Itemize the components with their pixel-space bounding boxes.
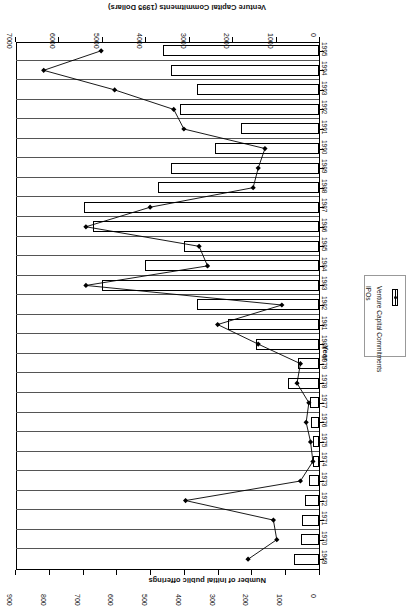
vc-tick-label: 3000 bbox=[180, 33, 187, 49]
ipo-marker-1986 bbox=[83, 224, 88, 229]
ipo-marker-1985 bbox=[196, 244, 201, 249]
ipo-marker-1987 bbox=[148, 205, 153, 210]
ipo-tick-label: 200 bbox=[242, 594, 249, 606]
ipo-tick-label: 700 bbox=[74, 594, 81, 606]
ipo-marker-1969 bbox=[245, 557, 250, 562]
year-label-1989: 1989 bbox=[321, 159, 328, 173]
vc-tick bbox=[232, 37, 233, 42]
vc-tick-label: 7000 bbox=[6, 33, 13, 49]
legend-label-vc: Venture Capital Commitments bbox=[376, 286, 383, 372]
ipo-tick-label: 400 bbox=[175, 594, 182, 606]
year-label-1970: 1970 bbox=[321, 531, 328, 545]
vc-tick bbox=[189, 37, 190, 42]
vc-tick bbox=[15, 37, 16, 42]
year-label-1984: 1984 bbox=[321, 257, 328, 271]
year-label-1993: 1993 bbox=[321, 81, 328, 95]
vc-tick-label: 0 bbox=[310, 33, 317, 37]
ipo-marker-1988 bbox=[251, 185, 256, 190]
ipo-marker-1990 bbox=[262, 146, 267, 151]
year-label-1992: 1992 bbox=[321, 100, 328, 114]
ipo-marker-1993 bbox=[112, 87, 117, 92]
ipo-tick bbox=[116, 570, 117, 575]
year-label-1981: 1981 bbox=[321, 316, 328, 330]
year-label-1991: 1991 bbox=[321, 120, 328, 134]
plot-area bbox=[16, 42, 320, 570]
ipo-tick bbox=[49, 570, 50, 575]
year-label-1972: 1972 bbox=[321, 492, 328, 506]
year-label-1971: 1971 bbox=[321, 511, 328, 525]
ipo-marker-1989 bbox=[256, 166, 261, 171]
year-axis-title: Year bbox=[321, 345, 330, 361]
ipo-axis-title: Number of Initial public offerings bbox=[148, 576, 266, 585]
ipo-marker-1978 bbox=[294, 381, 299, 386]
ipo-marker-1980 bbox=[256, 342, 261, 347]
vc-axis-title: Venture Capital Commitments (1995 Dollar… bbox=[108, 3, 266, 12]
year-label-1977: 1977 bbox=[321, 394, 328, 408]
ipo-axis bbox=[16, 569, 320, 570]
ipo-marker-1973 bbox=[298, 478, 303, 483]
ipo-marker-1992 bbox=[171, 107, 176, 112]
vc-tick bbox=[102, 37, 103, 42]
ipo-tick bbox=[285, 570, 286, 575]
vc-tick bbox=[58, 37, 59, 42]
vc-tick-label: 4000 bbox=[136, 33, 143, 49]
ipo-line-series bbox=[15, 41, 319, 569]
ipo-marker-1971 bbox=[271, 518, 276, 523]
ipo-marker-1970 bbox=[274, 537, 279, 542]
year-label-1988: 1988 bbox=[321, 179, 328, 193]
ipo-tick bbox=[184, 570, 185, 575]
year-label-1978: 1978 bbox=[321, 374, 328, 388]
ipo-tick-label: 600 bbox=[107, 594, 114, 606]
ipo-tick-label: 800 bbox=[40, 594, 47, 606]
ipo-tick bbox=[83, 570, 84, 575]
year-label-1983: 1983 bbox=[321, 276, 328, 290]
vc-tick-label: 6000 bbox=[49, 33, 56, 49]
ipo-tick-label: 500 bbox=[141, 594, 148, 606]
vc-tick bbox=[145, 37, 146, 42]
ipo-marker-1984 bbox=[205, 263, 210, 268]
ipo-marker-1981 bbox=[215, 322, 220, 327]
year-label-1974: 1974 bbox=[321, 452, 328, 466]
year-label-1985: 1985 bbox=[321, 237, 328, 251]
year-label-1982: 1982 bbox=[321, 296, 328, 310]
ipo-marker-1979 bbox=[298, 361, 303, 366]
ipo-marker-1982 bbox=[279, 302, 284, 307]
year-label-1973: 1973 bbox=[321, 472, 328, 486]
year-label-1987: 1987 bbox=[321, 198, 328, 212]
vc-axis bbox=[16, 41, 320, 42]
ipo-tick bbox=[251, 570, 252, 575]
vc-tick bbox=[276, 37, 277, 42]
ipo-tick-label: 0 bbox=[310, 594, 317, 598]
ipo-marker-1983 bbox=[83, 283, 88, 288]
ipo-marker-1994 bbox=[41, 68, 46, 73]
ipo-marker-1991 bbox=[181, 126, 186, 131]
year-label-1976: 1976 bbox=[321, 413, 328, 427]
year-label-1995: 1995 bbox=[321, 42, 328, 56]
vc-tick bbox=[319, 37, 320, 42]
ipo-tick-label: 300 bbox=[209, 594, 216, 606]
year-label-1986: 1986 bbox=[321, 218, 328, 232]
year-label-1969: 1969 bbox=[321, 550, 328, 564]
year-label-1994: 1994 bbox=[321, 61, 328, 75]
vc-tick-label: 1000 bbox=[267, 33, 274, 49]
legend-label-ipos: IPOs bbox=[365, 286, 372, 300]
ipo-tick bbox=[218, 570, 219, 575]
ipo-marker-1977 bbox=[306, 400, 311, 405]
year-label-1975: 1975 bbox=[321, 433, 328, 447]
ipo-tick-label: 900 bbox=[6, 594, 13, 606]
ipo-marker-1974 bbox=[310, 459, 315, 464]
year-label-1990: 1990 bbox=[321, 140, 328, 154]
ipo-marker-1975 bbox=[308, 439, 313, 444]
chart-legend: Venture Capital Commitments IPOs bbox=[364, 275, 406, 357]
ipo-line-path bbox=[44, 51, 313, 559]
ipo-tick bbox=[150, 570, 151, 575]
ipo-marker-1976 bbox=[304, 420, 309, 425]
ipo-tick-label: 100 bbox=[276, 594, 283, 606]
legend-swatch-marker bbox=[394, 296, 397, 299]
vc-tick-label: 5000 bbox=[93, 33, 100, 49]
vc-tick-label: 2000 bbox=[223, 33, 230, 49]
ipo-tick bbox=[15, 570, 16, 575]
ipo-marker-1972 bbox=[183, 498, 188, 503]
ipo-tick bbox=[319, 570, 320, 575]
